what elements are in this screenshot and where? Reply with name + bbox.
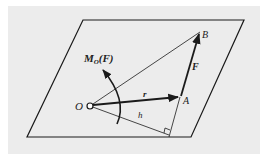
background-panel bbox=[8, 6, 260, 154]
position-label: r bbox=[143, 89, 147, 99]
force-label: F bbox=[191, 61, 199, 72]
moment-of-force-diagram: MO(F) O A B F r h bbox=[0, 0, 268, 162]
point-B-label: B bbox=[202, 29, 208, 40]
point-O-circle bbox=[87, 103, 93, 109]
arm-label: h bbox=[138, 110, 143, 120]
point-A-label: A bbox=[182, 95, 190, 106]
moment-label: MO(F) bbox=[83, 52, 114, 66]
point-O-label: O bbox=[75, 100, 83, 112]
